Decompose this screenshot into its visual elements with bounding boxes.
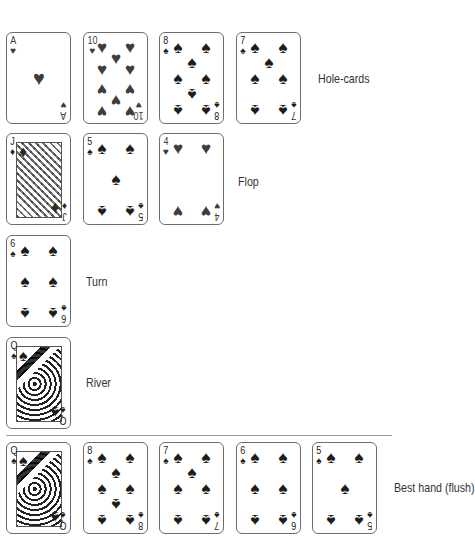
card-rank: 8: [163, 36, 168, 46]
heart-icon: ♥: [93, 102, 111, 120]
spade-icon: ♠: [350, 449, 368, 467]
spade-icon: ♠: [16, 242, 34, 260]
heart-icon: ♥: [93, 61, 111, 79]
card-rank: Q: [60, 415, 67, 425]
spade-icon: ♠: [246, 449, 264, 467]
card-rank: 8: [87, 446, 92, 456]
label-turn: Turn: [86, 274, 108, 289]
heart-icon: ♥: [60, 101, 67, 110]
heart-icon: ♥: [197, 140, 215, 158]
heart-icon: ♥: [30, 70, 48, 88]
label-river: River: [86, 375, 111, 390]
spade-icon: ♠: [16, 273, 34, 291]
card-rank: 5: [368, 520, 373, 530]
face-card-portrait: ♦♦: [16, 142, 62, 218]
card-corner-index: 6♠: [61, 304, 67, 323]
card-corner-index: A♥: [10, 36, 17, 55]
card-corner-index: Q♠: [59, 406, 67, 425]
spade-icon: ♠: [44, 273, 62, 291]
heart-icon: ♥: [169, 140, 187, 158]
card-10-of-hearts: ♥♥♥♥♥♥♥♥♥♥10♥10♥: [83, 32, 148, 124]
spade-icon: ♠: [138, 202, 144, 211]
card-8-of-spades: ♠♠♠♠♠♠♠♠8♠8♠: [83, 442, 148, 534]
card-corner-index: Q♠: [10, 446, 18, 465]
spade-icon: ♠: [240, 46, 246, 55]
card-corner-index: 6♠: [10, 239, 16, 258]
spade-icon: ♠: [169, 511, 187, 529]
card-rank: J: [62, 211, 67, 221]
card-rank: A: [61, 110, 67, 120]
spade-icon: ♠: [16, 304, 34, 322]
spade-icon: ♠: [246, 70, 264, 88]
spade-icon: ♠: [322, 449, 340, 467]
spade-icon: ♠: [19, 348, 28, 364]
card-corner-index: Q♠: [59, 511, 67, 530]
spade-icon: ♠: [246, 480, 264, 498]
card-corner-index: 7♠: [240, 36, 246, 55]
card-q-of-spades: ♠♠Q♠Q♠: [6, 337, 71, 429]
card-corner-index: 8♠: [138, 511, 144, 530]
heart-icon: ♥: [133, 101, 144, 110]
card-corner-index: J♦: [62, 202, 67, 221]
spade-icon: ♠: [336, 480, 354, 498]
card-rank: 5: [139, 211, 144, 221]
spade-icon: ♠: [51, 404, 60, 420]
card-rank: 7: [215, 520, 220, 530]
spade-icon: ♠: [44, 242, 62, 260]
card-8-of-spades: ♠♠♠♠♠♠♠♠8♠8♠: [159, 32, 224, 124]
spade-icon: ♠: [316, 456, 322, 465]
card-corner-index: 7♠: [163, 446, 169, 465]
diamond-icon: ♦: [62, 202, 67, 211]
card-corner-index: Q♠: [10, 341, 18, 360]
card-6-of-spades: ♠♠♠♠♠♠6♠6♠: [236, 442, 301, 534]
spade-icon: ♠: [87, 147, 93, 156]
card-rank: 8: [139, 520, 144, 530]
card-corner-index: 5♠: [87, 137, 93, 156]
card-a-of-hearts: ♥A♥A♥: [6, 32, 71, 124]
card-corner-index: 8♠: [87, 446, 93, 465]
card-corner-index: 5♠: [316, 446, 322, 465]
heart-icon: ♥: [87, 46, 98, 55]
spade-icon: ♠: [291, 511, 297, 520]
spade-icon: ♠: [59, 511, 67, 520]
card-rank: J: [10, 137, 15, 147]
spade-icon: ♠: [163, 46, 169, 55]
card-rank: Q: [10, 341, 17, 351]
spade-icon: ♠: [10, 249, 16, 258]
spade-icon: ♠: [51, 509, 60, 525]
spade-icon: ♠: [291, 101, 297, 110]
card-rank: 10: [88, 36, 98, 46]
spade-icon: ♠: [274, 449, 292, 467]
spade-icon: ♠: [87, 456, 93, 465]
card-rank: 6: [10, 239, 15, 249]
spade-icon: ♠: [367, 511, 373, 520]
card-rank: 8: [215, 110, 220, 120]
spade-icon: ♠: [214, 101, 220, 110]
heart-icon: ♥: [214, 202, 220, 211]
heart-icon: ♥: [10, 46, 17, 55]
face-card-portrait: ♠♠: [16, 451, 62, 527]
card-corner-index: A♥: [60, 101, 67, 120]
card-rank: 4: [163, 137, 168, 147]
card-rank: 4: [214, 211, 219, 221]
card-7-of-spades: ♠♠♠♠♠♠♠7♠7♠: [236, 32, 301, 124]
card-corner-index: 8♠: [214, 101, 220, 120]
spade-icon: ♠: [121, 202, 139, 220]
card-corner-index: 5♠: [367, 511, 373, 530]
card-rank: 7: [240, 36, 245, 46]
heart-icon: ♥: [163, 147, 169, 156]
spade-icon: ♠: [163, 456, 169, 465]
spade-icon: ♠: [274, 480, 292, 498]
card-corner-index: 4♥: [163, 137, 169, 156]
spade-icon: ♠: [197, 480, 215, 498]
spade-icon: ♠: [214, 511, 220, 520]
diamond-icon: ♦: [10, 147, 15, 156]
card-rank: 5: [316, 446, 321, 456]
spade-icon: ♠: [59, 406, 67, 415]
card-5-of-spades: ♠♠♠♠♠5♠5♠: [83, 133, 148, 225]
spade-icon: ♠: [274, 70, 292, 88]
heart-icon: ♥: [169, 202, 187, 220]
card-corner-index: 7♠: [214, 511, 220, 530]
card-6-of-spades: ♠♠♠♠♠♠6♠6♠: [6, 235, 71, 327]
spade-icon: ♠: [322, 511, 340, 529]
